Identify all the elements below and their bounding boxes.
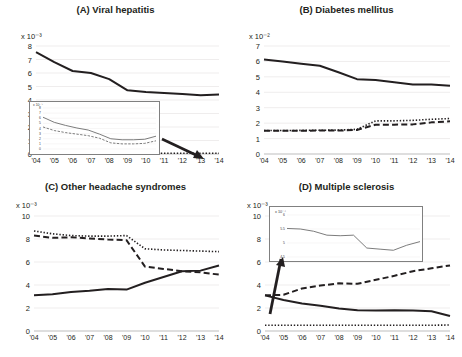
x-tick-label: '13 [421,157,441,164]
x-tick-label: '12 [403,334,423,341]
inset-y-tick-label: 5 [277,241,285,245]
panel-a-viral-hepatitis: (A) Viral hepatitis x 10⁻³ 012345678 '04… [0,0,231,178]
y-tick-label: 10 [245,212,261,221]
x-tick-label: '06 [63,157,83,164]
y-tick-label: 2 [14,304,30,313]
y-tick-label: 4 [244,88,260,97]
panel-d-y-exponent: x 10⁻³ [247,201,268,210]
inset-y-tick-label: 5.5 [277,227,285,231]
inset-y-tick-label: 2 [33,137,41,141]
panel-d-title: (D) Multiple sclerosis [231,181,462,192]
inset-y-tick-label: 1 [33,142,41,146]
y-tick-label: 2 [244,119,260,128]
x-tick-label: '10 [135,334,155,341]
inset-y-tick-label: 4 [33,127,41,131]
x-tick-label: '04 [26,157,46,164]
x-tick-label: '14 [440,157,460,164]
x-tick-label: '14 [209,334,229,341]
x-tick-label: '09 [347,157,367,164]
inset-y-tick-label: 6 [33,116,41,120]
x-tick-label: '11 [385,334,405,341]
inset-y-tick-label: 0 [33,147,41,151]
y-tick-label: 6 [244,57,260,66]
x-tick-label: '08 [329,334,349,341]
x-tick-label: '08 [328,157,348,164]
x-tick-label: '10 [136,157,156,164]
panel-a-inset-lines [43,108,156,149]
panel-a-inset: x 10⁻⁵ 012345678 [29,101,160,155]
y-tick-label: 5 [244,72,260,81]
y-tick-label: 4 [14,281,30,290]
x-tick-label: '05 [44,157,64,164]
y-tick-label: 4 [245,281,261,290]
panel-c-title: (C) Other headache syndromes [0,181,231,192]
y-tick-label: 8 [245,235,261,244]
x-tick-label: '13 [422,334,442,341]
x-tick-label: '05 [274,334,294,341]
x-tick-label: '05 [273,157,293,164]
panel-b-diabetes-mellitus: (B) Diabetes mellitus x 10⁻² 01234567 '0… [231,0,462,178]
x-tick-label: '04 [254,157,274,164]
x-tick-label: '09 [118,157,138,164]
y-tick-label: 10 [14,212,30,221]
x-tick-label: '09 [348,334,368,341]
panel-d-multiple-sclerosis: (D) Multiple sclerosis x 10⁻³ 0246810 '0… [231,179,462,357]
y-tick-label: 6 [14,258,30,267]
x-tick-label: '07 [80,334,100,341]
x-tick-label: '12 [172,334,192,341]
x-tick-label: '12 [403,157,423,164]
x-tick-label: '09 [117,334,137,341]
inset-y-tick-label: 3 [33,132,41,136]
panel-a-title: (A) Viral hepatitis [0,4,231,15]
x-tick-label: '06 [292,334,312,341]
figure-container: (A) Viral hepatitis x 10⁻³ 012345678 '04… [0,0,462,357]
x-tick-label: '14 [209,157,229,164]
x-tick-label: '08 [98,334,118,341]
x-tick-label: '11 [154,334,174,341]
x-tick-label: '10 [366,334,386,341]
x-tick-label: '06 [61,334,81,341]
x-tick-label: '11 [384,157,404,164]
inset-y-tick-label: 5 [33,121,41,125]
x-tick-label: '08 [99,157,119,164]
panel-d-inset-lines [287,215,420,257]
y-tick-label: 1 [244,134,260,143]
panel-b-plot-area [264,46,450,154]
panel-c-lines [34,216,219,331]
panel-d-annotation-arrow [267,256,289,318]
x-tick-label: '04 [255,334,275,341]
y-tick-label: 7 [16,55,32,64]
panel-d-inset: x 10⁻⁴ 4.555.56 [269,206,423,262]
x-tick-label: '13 [191,334,211,341]
y-tick-label: 2 [245,304,261,313]
panel-b-y-exponent: x 10⁻² [249,32,270,41]
x-tick-label: '04 [24,334,44,341]
x-tick-label: '07 [310,157,330,164]
inset-y-tick-label: 7 [33,111,41,115]
y-tick-label: 3 [244,103,260,112]
x-tick-label: '10 [366,157,386,164]
y-tick-label: 5 [16,82,32,91]
panel-b-lines [264,46,450,154]
panel-c-plot-area [34,216,219,331]
y-tick-label: 7 [244,42,260,51]
y-tick-label: 8 [16,42,32,51]
x-tick-label: '14 [440,334,460,341]
x-tick-label: '05 [43,334,63,341]
inset-y-tick-label: 6 [277,213,285,217]
inset-y-tick-label: 8 [33,106,41,110]
panel-c-other-headache-syndromes: (C) Other headache syndromes x 10⁻³ 0246… [0,179,231,357]
panel-c-y-exponent: x 10⁻³ [16,201,37,210]
x-tick-label: '06 [291,157,311,164]
y-tick-label: 6 [16,69,32,78]
panel-a-y-exponent: x 10⁻³ [21,32,42,41]
y-tick-label: 6 [245,258,261,267]
panel-b-title: (B) Diabetes mellitus [231,4,462,15]
panel-a-annotation-arrow [160,137,210,162]
x-tick-label: '07 [311,334,331,341]
y-tick-label: 8 [14,235,30,244]
x-tick-label: '07 [81,157,101,164]
